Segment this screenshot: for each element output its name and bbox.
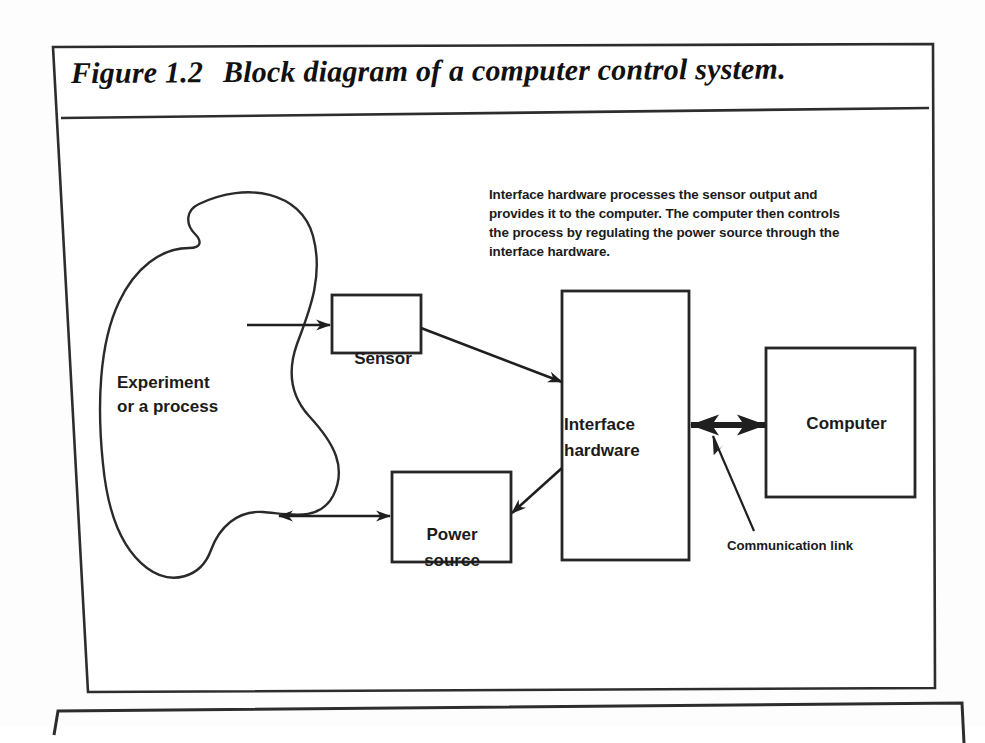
computer-label: Computer xyxy=(774,413,919,435)
block-diagram: Interface hardware processes the sensor … xyxy=(51,44,936,694)
sensor-label: Sensor xyxy=(338,348,428,370)
power-source-label: Power source xyxy=(393,522,511,573)
figure-frame: Figure 1.2Block diagram of a computer co… xyxy=(51,44,935,692)
arrow-interface-to-power xyxy=(512,468,562,513)
next-figure-border xyxy=(14,703,964,743)
diagram-vectors xyxy=(51,44,936,694)
sensor-box xyxy=(332,295,421,353)
callout-pointer-communication-link xyxy=(713,436,754,531)
next-figure-outline xyxy=(54,703,964,743)
communication-link-label: Communication link xyxy=(727,538,927,555)
process-label: Experiment or a process xyxy=(117,371,287,419)
interface-hardware-label: Interface hardware xyxy=(564,412,684,463)
arrow-sensor-to-interface xyxy=(421,328,562,382)
caption-text: Interface hardware processes the sensor … xyxy=(489,185,859,261)
next-figure-frame-partial xyxy=(14,703,964,743)
